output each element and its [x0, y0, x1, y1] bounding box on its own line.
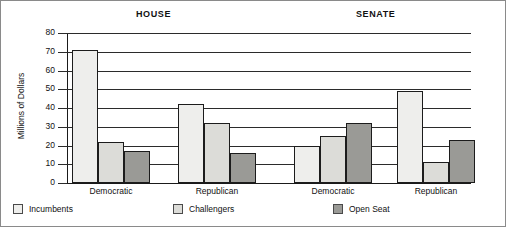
x-axis-category-label: Republican [177, 186, 257, 196]
y-axis-tick [58, 146, 67, 147]
y-axis-tick-label: 10 [33, 159, 55, 168]
y-axis-tick-label: 40 [33, 103, 55, 112]
legend-swatch-open-seat [333, 204, 343, 214]
bar [423, 162, 449, 183]
bar [346, 123, 372, 183]
y-axis-tick-label: 20 [33, 141, 55, 150]
legend-item-label: Incumbents [29, 204, 73, 214]
bar [449, 140, 475, 183]
plot-area [67, 33, 471, 183]
legend-item[interactable]: Open Seat [333, 204, 390, 214]
y-axis-title: Millions of Dollars [16, 41, 26, 171]
x-axis-line [67, 183, 471, 184]
y-axis-tick [58, 127, 67, 128]
y-axis-tick [58, 108, 67, 109]
y-axis-tick [58, 164, 67, 165]
bar [204, 123, 230, 183]
y-axis-tick-label: 70 [33, 47, 55, 56]
legend-item-label: Challengers [189, 204, 234, 214]
bar [98, 142, 124, 183]
bar [397, 91, 423, 183]
x-axis-category-label: Democratic [293, 186, 373, 196]
y-axis-tick [58, 71, 67, 72]
y-axis-tick-label: 50 [33, 84, 55, 93]
chart-legend: IncumbentsChallengersOpen Seat [13, 204, 493, 220]
legend-item-label: Open Seat [349, 204, 390, 214]
bar [230, 153, 256, 183]
y-axis-tick [58, 33, 67, 34]
bar [72, 50, 98, 183]
y-axis-tick-label: 30 [33, 122, 55, 131]
y-axis-tick [58, 52, 67, 53]
bar [294, 146, 320, 184]
x-axis-category-label: Republican [396, 186, 476, 196]
legend-item[interactable]: Incumbents [13, 204, 73, 214]
bar [178, 104, 204, 183]
bar [320, 136, 346, 183]
panel-title-senate: SENATE [356, 9, 395, 19]
y-axis-tick-label: 80 [33, 28, 55, 37]
legend-swatch-incumbents [13, 204, 23, 214]
y-axis-tick [58, 183, 67, 184]
panel-title-house: HOUSE [136, 9, 171, 19]
y-axis-tick-label: 0 [33, 178, 55, 187]
bar [124, 151, 150, 183]
x-axis-category-label: Democratic [71, 186, 151, 196]
legend-item[interactable]: Challengers [173, 204, 234, 214]
y-axis-tick-label: 60 [33, 66, 55, 75]
y-axis-tick [58, 89, 67, 90]
chart-screenshot: HOUSE SENATE Millions of Dollars 8070605… [0, 0, 506, 227]
legend-swatch-challengers [173, 204, 183, 214]
